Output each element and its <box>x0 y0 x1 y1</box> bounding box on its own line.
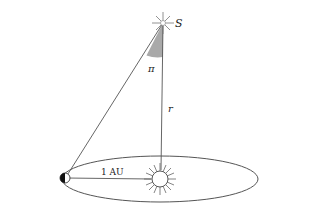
parallax-diagram: S π r 1 AU <box>0 0 318 219</box>
parallax-angle-wedge <box>147 23 164 57</box>
star-earth-line <box>66 23 163 177</box>
parallax-angle-label: π <box>147 63 155 74</box>
star-label: S <box>175 17 183 30</box>
sun-icon <box>144 163 176 195</box>
star-icon <box>152 12 174 34</box>
distance-label: r <box>168 103 174 114</box>
au-baseline <box>66 178 151 179</box>
baseline-label: 1 AU <box>101 167 124 177</box>
earth-icon <box>60 173 70 183</box>
